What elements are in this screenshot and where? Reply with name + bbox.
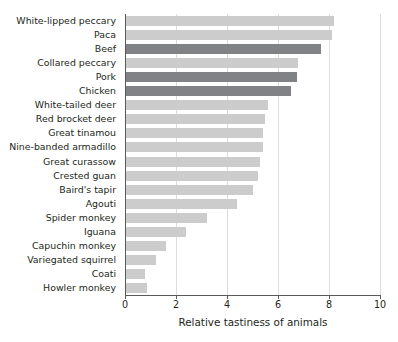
y-tick-label: Red brocket deer xyxy=(36,113,116,125)
y-tick-label: Agouti xyxy=(86,198,116,210)
bar-fill xyxy=(125,227,186,237)
bar xyxy=(125,16,334,26)
y-tick-label: Chicken xyxy=(79,85,116,97)
x-tick-label: 6 xyxy=(275,299,281,311)
bar-fill xyxy=(125,241,166,251)
y-tick-label: Great tinamou xyxy=(48,127,116,139)
bar xyxy=(125,114,265,124)
x-axis-line xyxy=(125,295,381,296)
y-tick-label: Crested guan xyxy=(53,170,116,182)
y-tick-label: Coati xyxy=(92,268,116,280)
gridline-10 xyxy=(380,14,381,295)
bar xyxy=(125,157,260,167)
bar xyxy=(125,142,263,152)
x-tick-label: 8 xyxy=(326,299,332,311)
bar xyxy=(125,283,147,293)
bar-fill xyxy=(125,100,268,110)
bar-fill xyxy=(125,283,147,293)
bar-fill xyxy=(125,213,207,223)
y-tick-label: Howler monkey xyxy=(43,282,116,294)
y-tick-label: Baird's tapir xyxy=(59,184,116,196)
bar xyxy=(125,213,207,223)
y-tick-label: Pork xyxy=(96,71,116,83)
x-tick-label: 2 xyxy=(173,299,179,311)
y-tick-label: Paca xyxy=(94,29,116,41)
bar xyxy=(125,185,253,195)
bar xyxy=(125,199,237,209)
bar xyxy=(125,269,145,279)
bar xyxy=(125,255,156,265)
y-tick-label: Spider monkey xyxy=(46,212,116,224)
bar-fill xyxy=(125,185,253,195)
bar-fill xyxy=(125,30,332,40)
x-tick-label: 4 xyxy=(224,299,230,311)
bar xyxy=(125,58,298,68)
bar-fill xyxy=(125,255,156,265)
bar-fill xyxy=(125,269,145,279)
bar xyxy=(125,227,186,237)
bar-fill xyxy=(125,142,263,152)
y-tick-label: Nine-banded armadillo xyxy=(9,141,116,153)
bar xyxy=(125,171,258,181)
bar xyxy=(125,100,268,110)
bar-fill xyxy=(125,157,260,167)
bar-fill xyxy=(125,128,263,138)
y-tick-label: Great curassow xyxy=(43,156,116,168)
bar xyxy=(125,44,321,54)
bar-fill xyxy=(125,171,258,181)
y-tick-label: Iguana xyxy=(84,226,116,238)
bar-series xyxy=(125,14,380,295)
bar xyxy=(125,86,291,96)
bar-fill xyxy=(125,58,298,68)
x-tick-label: 10 xyxy=(374,299,386,311)
bar xyxy=(125,128,263,138)
bar xyxy=(125,72,297,82)
bar-chart: White-lipped peccaryPacaBeefCollared pec… xyxy=(0,0,398,342)
y-tick-label: Collared peccary xyxy=(37,57,116,69)
bar-fill xyxy=(125,199,237,209)
y-tick-label: Capuchin monkey xyxy=(32,240,116,252)
bar-fill xyxy=(125,86,291,96)
x-tick-label: 0 xyxy=(122,299,128,311)
y-axis-line xyxy=(125,14,126,295)
bar-fill xyxy=(125,16,334,26)
bar-fill xyxy=(125,114,265,124)
y-tick-label: White-tailed deer xyxy=(35,99,116,111)
bar-fill xyxy=(125,72,297,82)
y-tick-label: Variegated squirrel xyxy=(27,254,116,266)
bar xyxy=(125,30,332,40)
y-tick-label: White-lipped peccary xyxy=(16,15,116,27)
y-axis-tick-labels: White-lipped peccaryPacaBeefCollared pec… xyxy=(0,14,120,295)
bar xyxy=(125,241,166,251)
bar-fill xyxy=(125,44,321,54)
plot-area xyxy=(125,14,380,295)
y-tick-label: Beef xyxy=(95,43,116,55)
x-axis-title: Relative tastiness of animals xyxy=(125,316,381,328)
